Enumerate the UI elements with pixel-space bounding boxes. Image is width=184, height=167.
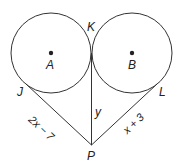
label-a: A (46, 59, 54, 71)
tangent-circles-diagram: A B K J L P y 2x − 7 x + 3 (0, 0, 184, 167)
label-l: L (159, 86, 166, 98)
label-p: P (87, 150, 95, 162)
center-b-dot (130, 51, 134, 55)
label-k: K (87, 21, 95, 33)
label-j: J (17, 86, 23, 98)
segment-lp (92, 84, 158, 145)
label-y: y (95, 106, 101, 118)
label-b: B (128, 59, 136, 71)
center-a-dot (49, 51, 53, 55)
